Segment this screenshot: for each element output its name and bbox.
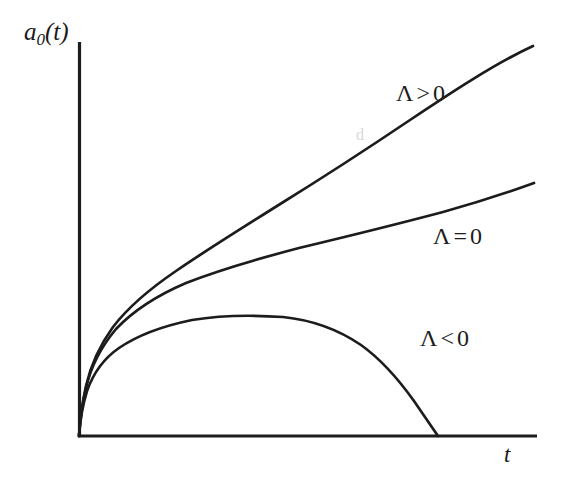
curve-label-lambda-negative: Λ<0 <box>420 325 469 352</box>
curve-lambda-negative <box>79 316 438 436</box>
curve-label-lambda-positive: Λ>0 <box>396 80 445 107</box>
value-text: 0 <box>433 80 445 106</box>
relation-symbol: > <box>413 80 433 106</box>
lambda-symbol: Λ <box>396 80 413 106</box>
relation-symbol: = <box>450 223 470 249</box>
lambda-symbol: Λ <box>433 223 450 249</box>
y-axis-label: a0(t) <box>24 18 69 50</box>
y-axis-label-subscript: 0 <box>37 30 46 49</box>
lambda-symbol: Λ <box>420 325 437 351</box>
x-axis-label: t <box>504 442 510 468</box>
curve-label-lambda-zero: Λ=0 <box>433 223 482 250</box>
relation-symbol: < <box>437 325 457 351</box>
cosmic-scale-factor-figure: a0(t) t Λ>0 Λ=0 Λ<0 d <box>0 0 562 484</box>
y-axis-label-argument: (t) <box>45 18 69 45</box>
value-text: 0 <box>457 325 469 351</box>
scan-artifact-mark: d <box>356 126 390 146</box>
y-axis-label-symbol: a <box>24 18 37 45</box>
value-text: 0 <box>470 223 482 249</box>
curve-lambda-zero <box>79 183 534 436</box>
